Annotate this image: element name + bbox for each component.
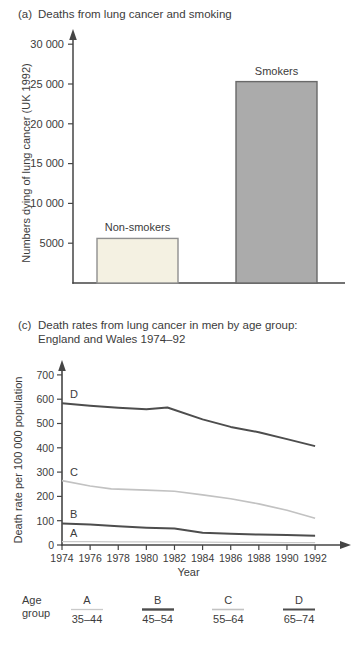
legend-letter-c: C <box>224 594 232 606</box>
legend-line-sample-b <box>141 607 175 612</box>
a-y-tick-label: 15 000 <box>30 157 64 169</box>
age-group-legend: Age group A 35–44 B 45–54 C 55–64 D <box>22 594 342 625</box>
bar-chart-deaths-smoking: 500010 00015 00020 00025 00030 000Number… <box>0 0 357 310</box>
c-x-tick-label: 1988 <box>247 552 271 564</box>
c-x-tick-label: 1978 <box>107 552 131 564</box>
c-x-tick-label: 1986 <box>219 552 243 564</box>
legend-label: Age group <box>22 594 64 625</box>
c-y-axis-arrow-icon <box>58 360 66 371</box>
legend-letter-b: B <box>154 594 161 606</box>
series-line-b <box>62 523 315 535</box>
c-y-tick-label: 400 <box>36 442 54 454</box>
legend-entry-d: D 65–74 <box>271 594 327 625</box>
legend-entry-b: B 45–54 <box>130 594 186 625</box>
legend-line-sample-d <box>282 607 316 612</box>
c-y-tick-label: 500 <box>36 417 54 429</box>
c-y-tick-label: 200 <box>36 490 54 502</box>
bar-non-smokers <box>97 238 178 283</box>
series-label-b: B <box>70 508 77 520</box>
figure-page: (a) Deaths from lung cancer and smoking … <box>0 0 357 646</box>
a-y-tick-label: 25 000 <box>30 78 64 90</box>
legend-entries: A 35–44 B 45–54 C 55–64 D 65–74 <box>59 594 327 625</box>
a-y-axis-arrow-icon <box>69 29 77 40</box>
c-y-axis-title: Death rate per 100 000 population <box>12 377 24 544</box>
series-label-d: D <box>70 388 78 400</box>
bar-label-smokers: Smokers <box>255 65 299 77</box>
c-x-tick-label: 1990 <box>275 552 299 564</box>
c-x-tick-label: 1984 <box>191 552 215 564</box>
c-y-tick-label: 600 <box>36 393 54 405</box>
a-y-tick-label: 20 000 <box>30 118 64 130</box>
series-line-a <box>62 542 315 543</box>
a-y-tick-label: 10 000 <box>30 197 64 209</box>
legend-range-a: 35–44 <box>72 613 103 625</box>
legend-line-sample-a <box>70 607 104 612</box>
c-y-tick-label: 100 <box>36 515 54 527</box>
legend-range-d: 65–74 <box>284 613 315 625</box>
c-x-tick-label: 1992 <box>303 552 327 564</box>
c-y-tick-label: 300 <box>36 466 54 478</box>
bar-smokers <box>236 82 317 283</box>
bar-label-non-smokers: Non-smokers <box>105 221 171 233</box>
series-label-c: C <box>70 466 78 478</box>
legend-range-b: 45–54 <box>142 613 173 625</box>
a-y-tick-label: 30 000 <box>30 38 64 50</box>
c-x-tick-label: 1980 <box>135 552 159 564</box>
legend-letter-a: A <box>83 594 90 606</box>
legend-range-c: 55–64 <box>213 613 244 625</box>
line-chart-death-rates: 0100200300400500600700197419761978198019… <box>0 310 357 594</box>
legend-line-sample-c <box>211 607 245 612</box>
legend-label-line2: group <box>22 607 64 620</box>
c-x-axis-title: Year <box>177 566 200 578</box>
legend-entry-c: C 55–64 <box>200 594 256 625</box>
series-line-d <box>62 403 315 446</box>
series-label-a: A <box>70 527 78 539</box>
legend-letter-d: D <box>295 594 303 606</box>
series-line-c <box>62 481 315 519</box>
c-x-tick-label: 1974 <box>50 552 74 564</box>
c-y-tick-label: 700 <box>36 369 54 381</box>
legend-entry-a: A 35–44 <box>59 594 115 625</box>
c-x-tick-label: 1976 <box>78 552 102 564</box>
c-x-tick-label: 1982 <box>163 552 187 564</box>
c-x-axis-arrow-icon <box>340 541 351 549</box>
a-y-tick-label: 5000 <box>40 237 64 249</box>
a-y-axis-title: Numbers dying of lung cancer (UK 1992) <box>20 63 32 262</box>
legend-label-line1: Age <box>22 594 64 607</box>
c-y-tick-label: 0 <box>48 539 54 551</box>
